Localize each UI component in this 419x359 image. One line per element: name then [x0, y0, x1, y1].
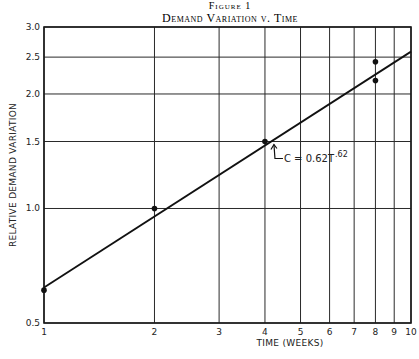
y-axis-label: RELATIVE DEMAND VARIATION	[8, 103, 18, 247]
y-tick-label: 2.0	[26, 89, 41, 99]
x-tick-label: 4	[262, 327, 268, 337]
x-tick-label: 5	[298, 327, 304, 337]
data-point	[373, 78, 379, 84]
y-tick-label: 1.5	[26, 137, 40, 147]
annotation-layer: C = 0.62T.62	[271, 145, 348, 164]
data-point	[41, 287, 47, 293]
plot-frame	[44, 27, 411, 323]
x-tick-label: 9	[391, 327, 397, 337]
grid	[44, 27, 411, 323]
x-tick-label: 2	[152, 327, 158, 337]
chart: Figure 1 Demand Variation v. Time 123456…	[0, 0, 419, 359]
x-tick-label: 8	[373, 327, 379, 337]
x-tick-label: 10	[405, 327, 417, 337]
x-axis-label: TIME (WEEKS)	[256, 338, 324, 348]
y-tick-label: 1.0	[26, 203, 41, 213]
x-tick-label: 1	[41, 327, 47, 337]
chart-title: Demand Variation v. Time	[162, 11, 298, 25]
x-axis-ticks: 12345678910	[41, 327, 417, 337]
y-tick-label: 2.5	[26, 52, 40, 62]
y-tick-label: 3.0	[26, 22, 41, 32]
series-layer	[41, 52, 411, 293]
data-point	[152, 206, 158, 212]
x-tick-label: 6	[327, 327, 333, 337]
x-tick-label: 7	[351, 327, 357, 337]
x-tick-label: 3	[216, 327, 222, 337]
annotation-text: C = 0.62T	[284, 153, 335, 164]
data-point	[373, 59, 379, 65]
annotation-exponent: .62	[335, 150, 348, 159]
fit-line	[44, 52, 411, 288]
figure-label: Figure 1	[209, 0, 251, 11]
y-axis-ticks: 0.51.01.52.02.53.0	[26, 22, 41, 328]
y-tick-label: 0.5	[26, 318, 40, 328]
